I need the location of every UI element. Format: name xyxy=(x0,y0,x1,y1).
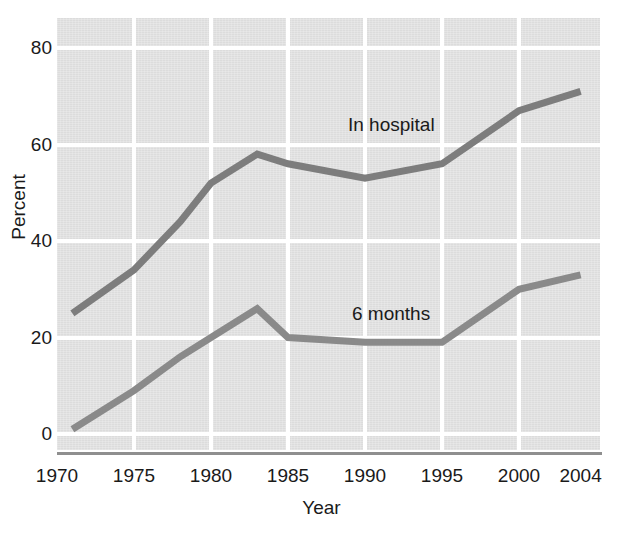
y-tick-label-60: 60 xyxy=(6,135,52,154)
x-tick-label-1985: 1985 xyxy=(253,466,323,485)
series-line-in-hospital xyxy=(72,91,580,313)
y-tick-label-20: 20 xyxy=(6,328,52,347)
y-tick-label-80: 80 xyxy=(6,38,52,57)
x-tick-label-1975: 1975 xyxy=(99,466,169,485)
x-axis-title: Year xyxy=(0,497,643,519)
x-tick-label-1970: 1970 xyxy=(22,466,92,485)
plot-area xyxy=(57,18,600,450)
y-axis-title: Percent xyxy=(8,162,30,252)
x-tick-label-1995: 1995 xyxy=(407,466,477,485)
series-label-6-months: 6 months xyxy=(352,303,430,325)
x-tick-label-2004: 2004 xyxy=(546,466,616,485)
x-tick-label-2000: 2000 xyxy=(484,466,554,485)
x-tick-label-1990: 1990 xyxy=(330,466,400,485)
series-lines xyxy=(57,18,600,450)
series-line-6-months xyxy=(72,275,580,429)
y-tick-label-0: 0 xyxy=(6,424,52,443)
series-label-in-hospital: In hospital xyxy=(348,114,435,136)
chart-figure: 020406080 197019751980198519901995200020… xyxy=(0,0,643,537)
x-tick-label-1980: 1980 xyxy=(176,466,246,485)
x-axis-line xyxy=(57,452,602,455)
